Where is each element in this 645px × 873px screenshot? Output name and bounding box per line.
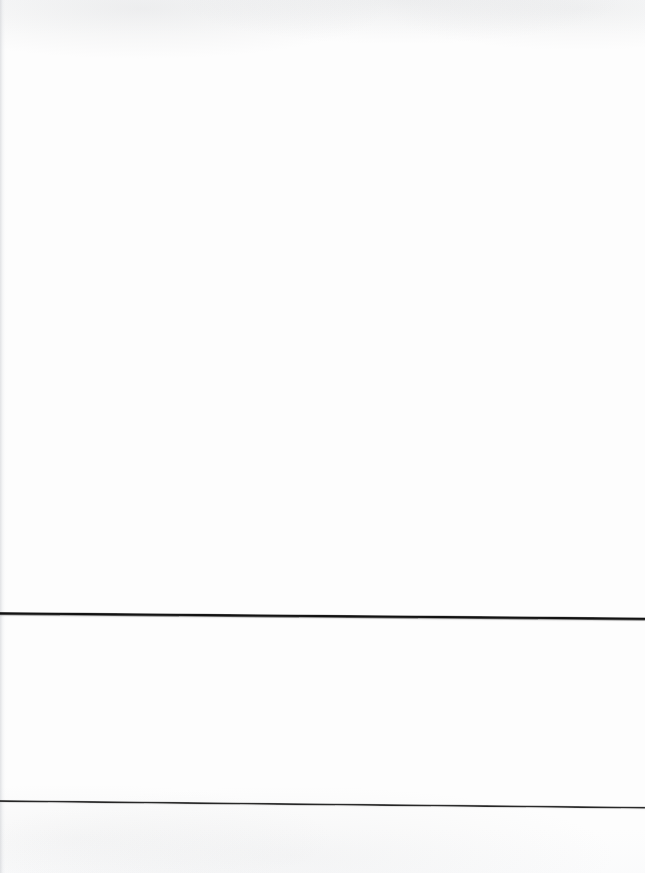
scanned-page <box>0 0 645 873</box>
upper-rule <box>0 612 645 621</box>
left-edge-gutter-shadow <box>0 0 7 873</box>
lower-rule <box>0 800 645 809</box>
paper-grain-overlay <box>0 0 645 873</box>
